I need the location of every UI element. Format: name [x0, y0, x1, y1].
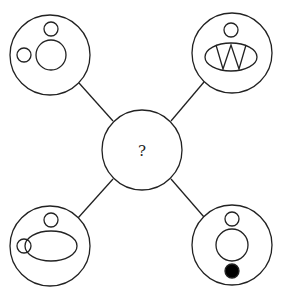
- outer-circle: [10, 206, 90, 286]
- node-bottom-left: [10, 206, 90, 286]
- question-mark: ?: [138, 142, 146, 160]
- node-top-right: [192, 13, 272, 93]
- connector-top-right: [171, 82, 204, 121]
- outer-circle: [192, 13, 272, 93]
- connector-top-left: [79, 83, 113, 121]
- outer-circle: [10, 15, 90, 95]
- node-bottom-right: [192, 205, 272, 285]
- puzzle-diagram: ?: [0, 0, 289, 300]
- connector-bottom-right: [171, 179, 204, 217]
- filled-circle-bottom: [225, 264, 239, 278]
- node-top-left: [10, 15, 90, 95]
- connector-bottom-left: [78, 179, 113, 218]
